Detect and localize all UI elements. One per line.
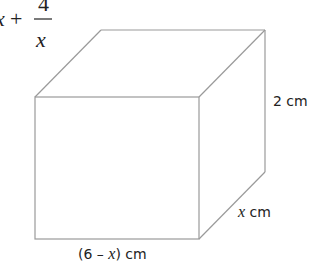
width-close: ) cm — [115, 246, 146, 262]
depth-var: x — [237, 203, 245, 220]
formula-denominator: x — [35, 27, 46, 52]
formula-prefix: x — [0, 6, 5, 31]
width-open: (6 – — [78, 246, 108, 262]
depth-label: x cm — [237, 203, 271, 220]
formula-plus: + — [10, 6, 22, 31]
height-label: 2 cm — [273, 93, 308, 109]
formula-numerator: 4 — [38, 0, 49, 16]
front-face — [35, 97, 199, 239]
depth-unit: cm — [245, 204, 271, 220]
formula: x + 4 x — [0, 0, 52, 52]
width-label: (6 – x) cm — [78, 245, 147, 262]
edge-top-right — [199, 30, 265, 97]
width-var: x — [107, 245, 115, 262]
cuboid-diagram: x + 4 x 2 cm x cm (6 – x) cm — [0, 0, 314, 264]
cuboid-edges — [35, 30, 265, 239]
